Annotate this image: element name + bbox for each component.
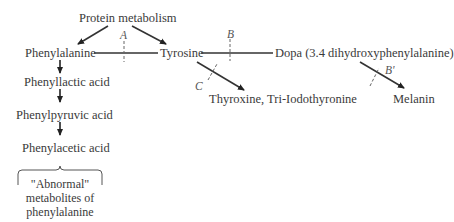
node-dopa: Dopa (3.4 dihydroxyphenylalanine) [275,46,454,60]
block-label-b: B [227,27,234,41]
node-tyrosine: Tyrosine [160,46,204,60]
node-thyroxine: Thyroxine, Tri-Iodothyronine [209,92,357,106]
note-line-1: "Abnormal" [14,177,106,191]
abnormal-metabolites-note: "Abnormal" metabolites of phenylalanine [14,177,106,219]
arrow-tyrosine-to-thyroxine [197,62,244,90]
node-phenylalanine: Phenylalanine [25,46,96,60]
block-label-a: A [120,28,127,42]
node-phenylpyruvic-acid: Phenylpyruvic acid [16,108,113,122]
arrow-protein-to-phenylalanine [78,26,108,44]
arrow-dopa-to-melanin [360,62,404,88]
block-label-c: C [195,79,203,93]
block-label-b-prime: B' [385,63,394,77]
note-line-3: phenylalanine [14,205,106,219]
node-phenylacetic-acid: Phenylacetic acid [22,141,110,155]
note-line-2: metabolites of [14,191,106,205]
node-phenyllactic-acid: Phenyllactic acid [24,75,110,89]
node-melanin: Melanin [393,92,435,106]
node-protein-metabolism: Protein metabolism [79,11,177,25]
arrow-protein-to-tyrosine [132,26,166,44]
